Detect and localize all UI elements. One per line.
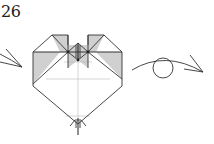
heart-outline: [33, 35, 122, 135]
origami-diagram: [0, 0, 214, 144]
heart-model: [33, 35, 122, 135]
arrow-left-icon: [0, 49, 22, 67]
turn-over-arrow-icon: [132, 55, 203, 78]
